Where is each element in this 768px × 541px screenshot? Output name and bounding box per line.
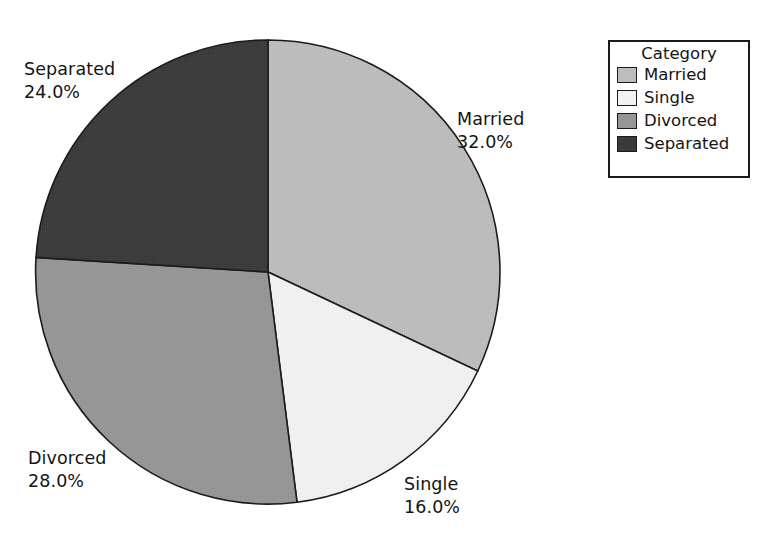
legend-swatch-divorced [617,113,637,129]
legend-label-single: Single [644,89,695,107]
slice-label-divorced: Divorced 28.0% [28,447,107,493]
slice-label-married-name: Married [457,109,524,129]
legend-label-married: Married [644,66,707,84]
legend-swatch-single [617,90,637,106]
slice-label-separated-name: Separated [24,59,115,79]
slice-label-married-percent: 32.0% [457,131,524,154]
slice-label-single: Single 16.0% [404,473,460,519]
legend-label-divorced: Divorced [644,112,717,130]
chart-legend: Category Married Single Divorced Separat… [608,40,750,178]
slice-label-separated: Separated 24.0% [24,58,115,104]
legend-swatch-married [617,67,637,83]
slice-label-married: Married 32.0% [457,108,524,154]
legend-item-married[interactable]: Married [610,64,748,87]
slice-label-single-percent: 16.0% [404,496,460,519]
slice-label-separated-percent: 24.0% [24,81,115,104]
legend-item-single[interactable]: Single [610,87,748,110]
legend-title: Category [610,45,748,64]
legend-item-divorced[interactable]: Divorced [610,110,748,133]
legend-item-separated[interactable]: Separated [610,133,748,156]
slice-label-single-name: Single [404,474,458,494]
slice-label-divorced-percent: 28.0% [28,470,107,493]
pie-slices [36,40,500,504]
legend-swatch-separated [617,136,637,152]
legend-label-separated: Separated [644,135,729,153]
pie-chart-figure: Married 32.0% Single 16.0% Divorced 28.0… [0,0,768,541]
slice-label-divorced-name: Divorced [28,448,107,468]
